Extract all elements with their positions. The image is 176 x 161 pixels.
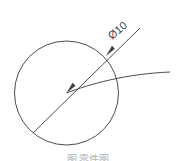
figure-caption-clipped: 图 零件图 <box>0 152 176 161</box>
technical-drawing-figure: Ø10 图 零件图 <box>0 0 176 161</box>
drawing-canvas: Ø10 <box>0 0 176 161</box>
figure-caption-text: 图 零件图 <box>0 152 176 161</box>
diameter-dimension-label: Ø10 <box>106 19 130 42</box>
